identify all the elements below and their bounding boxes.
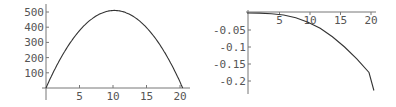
y-tick-label: 400 [24, 21, 44, 34]
x-tick-label: 5 [276, 14, 283, 27]
x-tick-label: 15 [140, 90, 153, 103]
y-tick-label: -0.15 [213, 58, 246, 71]
y-tick-label: -0.1 [220, 41, 247, 54]
y-tick-label: -0.2 [220, 75, 247, 88]
y-tick-label: -0.05 [213, 24, 246, 37]
y-tick-label: 100 [24, 67, 44, 80]
x-tick-label: 5 [76, 90, 83, 103]
x-tick-label: 20 [364, 14, 377, 27]
chart-right: -0.05-0.1-0.15-0.2 5101520 [213, 10, 378, 94]
y-tick-label: 200 [24, 52, 44, 65]
x-tick-label: 15 [334, 14, 347, 27]
figure: 100200300400500 5101520 -0.05-0.1-0.15-0… [0, 0, 396, 107]
x-tick-label: 10 [106, 90, 119, 103]
chart-left: 100200300400500 5101520 [24, 4, 190, 103]
curve-left [46, 10, 183, 88]
y-tick-label: 300 [24, 36, 44, 49]
x-tick-label: 20 [173, 90, 186, 103]
y-tick-label: 500 [24, 6, 44, 19]
